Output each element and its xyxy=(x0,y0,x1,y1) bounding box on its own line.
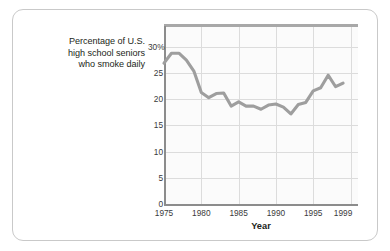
caption-line-3: who smoke daily xyxy=(23,59,145,71)
y-tick-label: 10 xyxy=(148,147,163,157)
x-axis-title: Year xyxy=(164,221,358,231)
x-tick-label: 1999 xyxy=(334,208,352,218)
x-tick-label: 1975 xyxy=(155,208,173,218)
y-tick-label: 25 xyxy=(148,68,163,78)
caption-line-2: high school seniors xyxy=(23,48,145,60)
x-axis-tick-labels: 197519801985199019951999 xyxy=(164,208,358,220)
x-tick-label: 1995 xyxy=(304,208,322,218)
series-line-chart xyxy=(164,26,358,204)
x-tick-label: 1980 xyxy=(192,208,210,218)
x-axis-line xyxy=(164,204,358,206)
x-tick-label: 1990 xyxy=(267,208,285,218)
series-polyline xyxy=(164,53,343,114)
y-tick-label: 15 xyxy=(148,120,163,130)
y-tick-label: 30% xyxy=(148,42,163,52)
chart-caption: Percentage of U.S. high school seniors w… xyxy=(23,36,145,71)
y-axis-tick-labels: 051015202530% xyxy=(141,26,163,204)
x-tick-label: 1985 xyxy=(229,208,247,218)
y-tick-label: 5 xyxy=(148,173,163,183)
chart-plot-wrapper: 051015202530% 197519801985199019951999 Y… xyxy=(148,15,370,237)
caption-line-1: Percentage of U.S. xyxy=(23,36,145,48)
figure-card: Percentage of U.S. high school seniors w… xyxy=(12,9,378,241)
y-tick-label: 20 xyxy=(148,94,163,104)
